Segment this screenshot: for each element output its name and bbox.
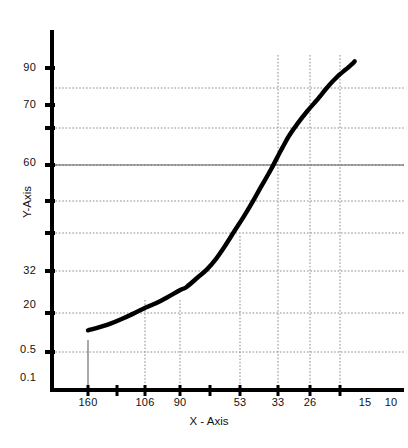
x-tick-label-160: 160 [71, 396, 105, 408]
y-tick-label-0-5: 0.5 [2, 343, 36, 355]
y-axis-title: Y-Axis [21, 172, 33, 232]
x-tick-label-106: 106 [128, 396, 162, 408]
chart-plot-area [0, 0, 408, 448]
horizontal-gridlines [52, 88, 404, 352]
x-tick-label-33: 33 [261, 396, 295, 408]
y-tick-label-0-1: 0.1 [2, 371, 36, 383]
y-tick-label-20: 20 [2, 298, 36, 310]
x-tick-label-53: 53 [223, 396, 257, 408]
data-series-line [88, 61, 355, 330]
y-tick-label-70: 70 [2, 98, 36, 110]
chart-container: 90 70 60 32 20 0.5 0.1 160 106 90 53 33 … [0, 0, 408, 448]
x-tick-label-26: 26 [293, 396, 327, 408]
x-tick-label-10: 10 [374, 396, 408, 408]
y-tick-label-60: 60 [2, 156, 36, 168]
y-tick-label-90: 90 [2, 61, 36, 73]
y-tick-label-32: 32 [2, 264, 36, 276]
x-tick-label-90: 90 [163, 396, 197, 408]
x-axis-title: X - Axis [134, 415, 284, 427]
